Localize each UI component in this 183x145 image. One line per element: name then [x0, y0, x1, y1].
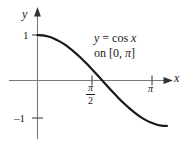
x-axis-label: x — [174, 72, 179, 84]
annotation-line-domain: on [0, π] — [94, 46, 136, 61]
cosine-graph-figure: y x 1 –1 π 2 π y = cos x on [0, π] — [0, 0, 183, 145]
annotation-block: y = cos x on [0, π] — [94, 31, 136, 61]
x-axis-arrowhead — [164, 77, 174, 84]
y-axis-arrowhead — [34, 7, 41, 17]
y-axis-label: y — [22, 8, 27, 20]
half-pi-numerator: π — [87, 83, 94, 94]
tick-label-y-one: 1 — [23, 30, 29, 41]
tick-label-x-pi: π — [148, 84, 153, 94]
tick-label-y-negative-one: –1 — [14, 113, 25, 124]
annotation-equals-cos: = cos — [99, 31, 131, 45]
annotation-x-symbol: x — [131, 31, 136, 45]
graph-canvas — [0, 0, 183, 145]
tick-label-x-half-pi: π 2 — [86, 83, 95, 106]
annotation-domain-prefix: on [0, — [94, 46, 125, 60]
annotation-domain-suffix: ] — [131, 46, 135, 60]
annotation-line-equation: y = cos x — [94, 31, 136, 46]
half-pi-denominator: 2 — [88, 95, 93, 106]
